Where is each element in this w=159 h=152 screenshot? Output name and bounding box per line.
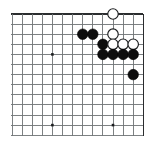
black-stone: [128, 49, 139, 60]
white-stone: [118, 39, 129, 50]
white-stone: [108, 9, 119, 20]
star-point: [51, 124, 54, 127]
board-grid: [11, 14, 143, 136]
go-board-diagram: [0, 0, 159, 152]
white-stone: [128, 39, 139, 50]
black-stone: [88, 29, 99, 40]
go-board-svg: [0, 0, 159, 152]
star-point: [112, 124, 115, 127]
white-stone: [108, 29, 119, 40]
black-stone: [118, 49, 129, 60]
black-stone: [108, 49, 119, 60]
star-point: [51, 53, 54, 56]
black-stone: [128, 69, 139, 80]
black-stone: [77, 29, 88, 40]
white-stone: [108, 39, 119, 50]
black-stone: [98, 39, 109, 50]
black-stone: [98, 49, 109, 60]
